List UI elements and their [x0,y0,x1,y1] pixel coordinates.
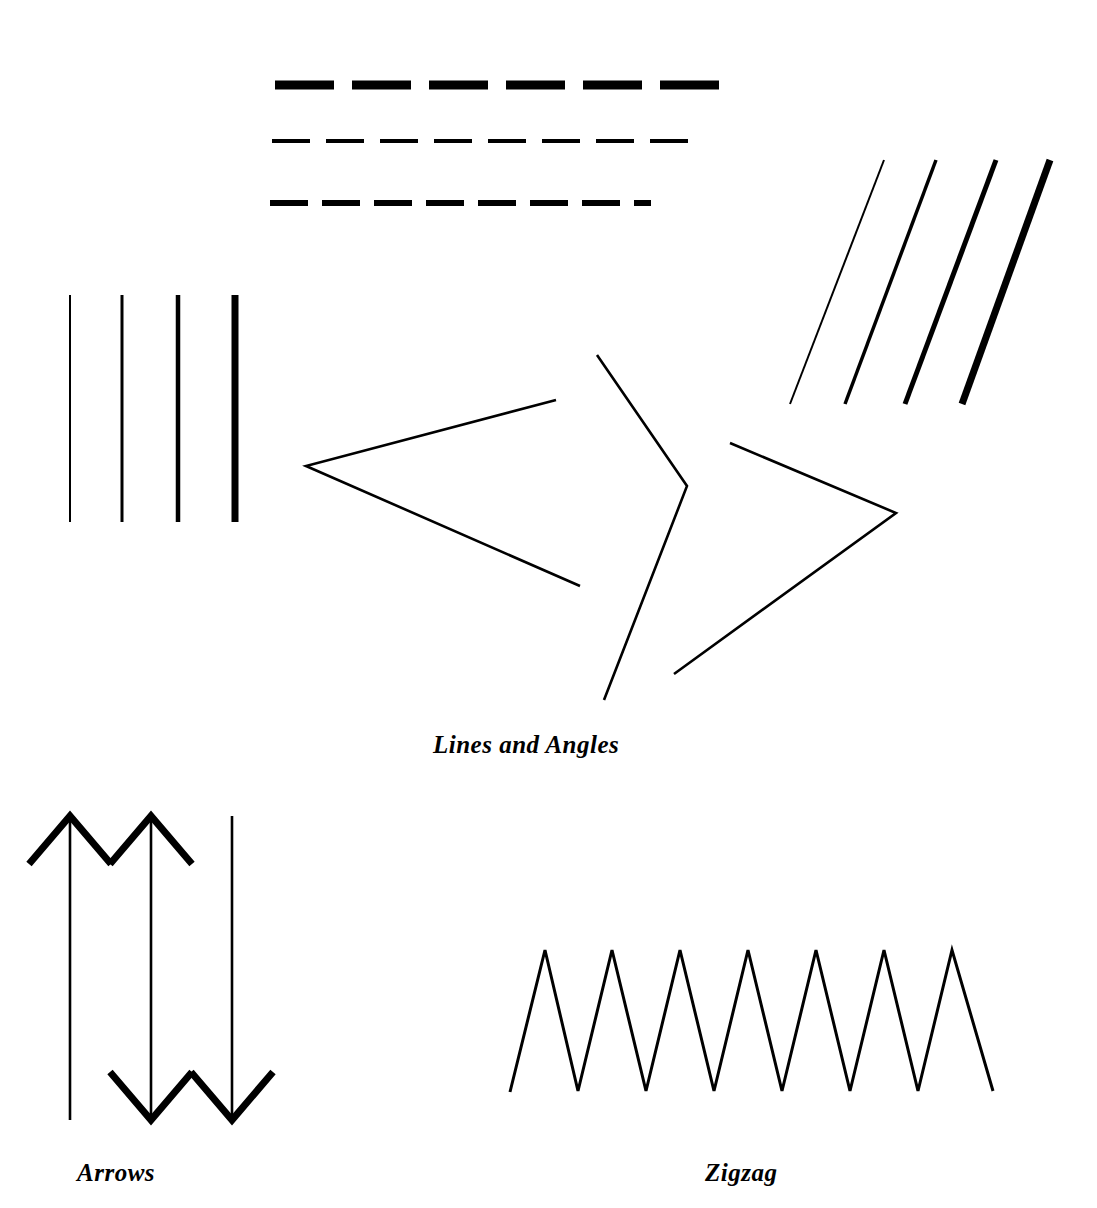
diagonal-lines-group [790,160,1050,404]
arrows-group [29,816,273,1120]
caption-zigzag: Zigzag [705,1159,777,1187]
arrow-double-headed [110,816,192,1120]
angle-open-right [306,400,580,586]
diagonal-line-hairline [790,160,884,404]
arrow-up [29,816,111,1120]
vertical-lines-group [70,295,235,522]
diagonal-line-thick [962,160,1050,404]
angles-group [306,355,896,700]
caption-arrows: Arrows [77,1159,155,1187]
angle-open-left-upper [597,355,687,700]
zigzag-polyline [510,950,993,1092]
figure-page: Lines and Angles Arrows Zigzag [0,0,1097,1208]
angle-open-left-lower [674,443,896,674]
caption-lines-and-angles: Lines and Angles [433,731,619,759]
zigzag-group [510,950,993,1092]
diagonal-line-medium [905,160,996,404]
arrow-down [191,816,273,1120]
diagonal-line-thin [845,160,936,404]
dashed-lines-group [270,85,733,203]
figure-canvas [0,0,1097,1208]
